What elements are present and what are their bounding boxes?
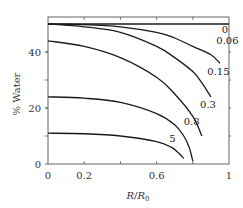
y-tick-label: 0 [35,159,41,170]
series-curve-0.8 [48,97,193,161]
series-group [48,24,229,161]
curve-labels: 00.060.150.30.85 [169,24,238,144]
x-tick-label: 0.2 [76,170,92,181]
series-curve-0.3 [48,41,202,136]
series-curve-0.06 [48,24,220,63]
chart: 00.20.6102040 00.060.150.30.85 R/R0 % Wa… [0,0,243,208]
x-tick-label: 1 [226,170,232,181]
curve-label: 5 [169,133,175,144]
series-curve-5 [48,133,184,158]
curve-label: 0.06 [216,35,238,46]
y-tick-label: 20 [28,103,41,114]
series-curve-0.15 [48,24,211,97]
y-tick-label: 40 [28,47,41,58]
y-axis-title: % Water [11,72,22,115]
x-tick-label: 0.6 [149,170,165,181]
curve-label: 0 [222,24,228,35]
x-tick-label: 0 [45,170,51,181]
curve-label: 0.15 [207,66,229,77]
curve-label: 0.8 [184,116,200,127]
curve-label: 0.3 [200,99,216,110]
x-axis-title: R/R0 [126,190,150,203]
